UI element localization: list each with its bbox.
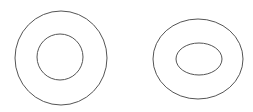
left-inner-circle — [37, 34, 83, 80]
right-outer-ellipse — [153, 19, 243, 99]
right-inner-ellipse — [176, 43, 222, 75]
diagram-canvas — [0, 0, 253, 112]
left-outer-circle — [15, 11, 107, 105]
right-ring — [153, 19, 243, 99]
left-ring — [15, 11, 107, 105]
